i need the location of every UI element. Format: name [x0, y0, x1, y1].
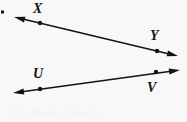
- point-marker-x: [38, 21, 42, 25]
- point-label-v: V: [147, 81, 156, 95]
- point-marker-v: [154, 70, 158, 74]
- point-label-u: U: [33, 67, 43, 81]
- figure-canvas: [0, 0, 187, 122]
- point-label-y: Y: [150, 29, 159, 43]
- geometry-figure: X Y U V scan bleed-through: [0, 0, 187, 122]
- point-label-x: X: [33, 2, 42, 16]
- point-marker-u: [38, 87, 42, 91]
- figure-background: [0, 0, 187, 122]
- scan-speck-artifact: [1, 11, 4, 14]
- point-marker-y: [155, 49, 159, 53]
